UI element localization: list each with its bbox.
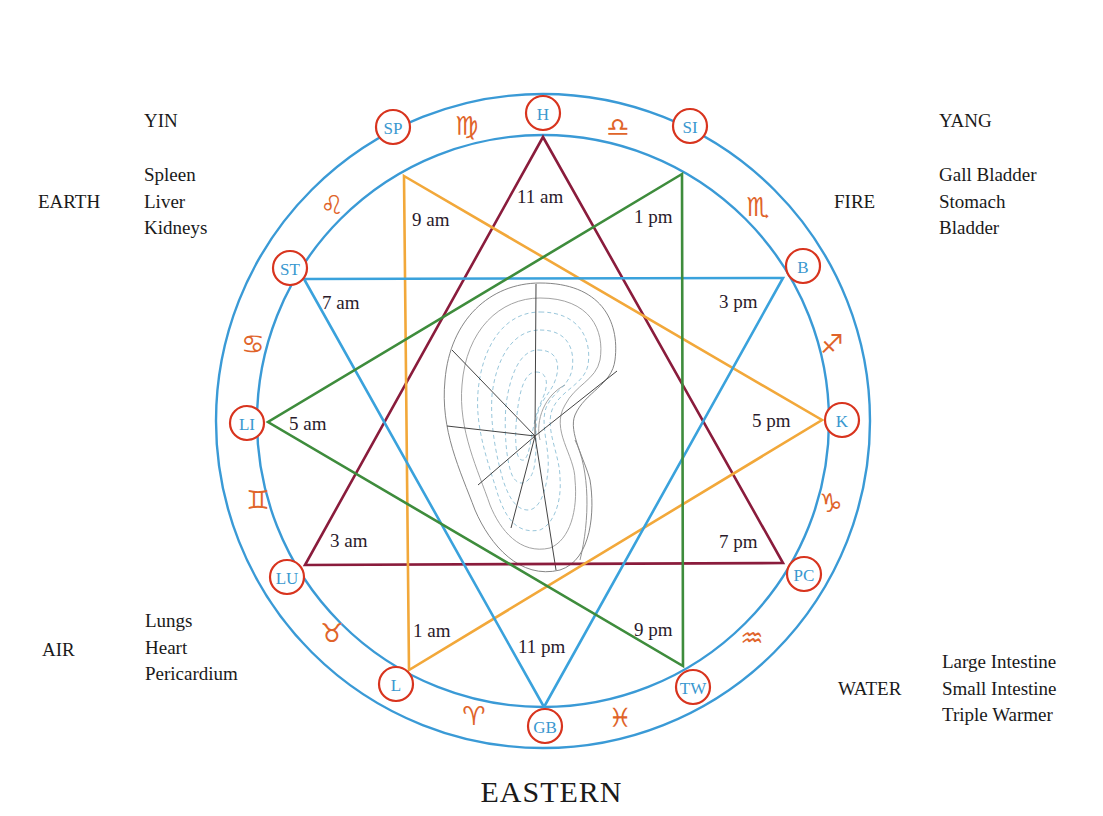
node-li: LI — [230, 406, 264, 440]
time-label-pc: 7 pm — [719, 531, 758, 552]
leo-icon: ♌ — [320, 190, 343, 220]
node-gb: GB — [528, 709, 562, 743]
node-lu: LU — [270, 560, 304, 594]
virgo-icon: ♍ — [455, 111, 478, 141]
time-label-si: 1 pm — [634, 206, 673, 227]
triangle-green — [268, 174, 683, 666]
svg-text:H: H — [537, 105, 549, 124]
time-label-b: 3 pm — [719, 291, 758, 312]
svg-text:TW: TW — [680, 679, 707, 698]
node-sp: SP — [376, 110, 410, 144]
gemini-icon: ♊ — [246, 485, 269, 515]
diagram-title: EASTERN — [0, 775, 1103, 809]
time-label-sp: 9 am — [412, 209, 450, 230]
svg-text:K: K — [836, 412, 849, 431]
sagittarius-icon: ♐ — [820, 329, 843, 359]
time-label-st: 7 am — [322, 292, 360, 313]
node-tw: TW — [676, 670, 710, 704]
svg-text:GB: GB — [533, 718, 557, 737]
time-label-k: 5 pm — [752, 410, 791, 431]
time-label-h: 11 am — [517, 186, 563, 207]
aquarius-icon: ♒ — [740, 623, 763, 653]
meridian-clock-diagram: 11 am 9 am 1 pm 7 am 3 pm 5 am 5 pm 3 am… — [0, 0, 1103, 816]
node-si: SI — [673, 109, 707, 143]
svg-text:LU: LU — [276, 569, 299, 588]
svg-text:SI: SI — [682, 118, 697, 137]
scorpio-icon: ♏ — [746, 192, 769, 222]
cancer-icon: ♋ — [241, 329, 264, 359]
ear-diagram-icon — [444, 283, 617, 572]
capricorn-icon: ♑ — [819, 488, 842, 518]
libra-icon: ♎ — [606, 112, 629, 142]
node-st: ST — [273, 251, 307, 285]
svg-text:SP: SP — [384, 119, 403, 138]
svg-text:B: B — [797, 258, 808, 277]
node-pc: PC — [787, 557, 821, 591]
svg-text:ST: ST — [280, 260, 300, 279]
node-k: K — [825, 403, 859, 437]
aries-icon: ♈ — [462, 701, 485, 731]
time-label-gb: 11 pm — [518, 636, 566, 657]
time-label-li: 5 am — [289, 413, 327, 434]
svg-text:L: L — [391, 676, 401, 695]
svg-text:LI: LI — [239, 415, 255, 434]
time-label-lu: 3 am — [330, 530, 368, 551]
time-label-tw: 9 pm — [634, 619, 673, 640]
svg-text:PC: PC — [794, 566, 815, 585]
node-h: H — [526, 96, 560, 130]
node-l: L — [379, 667, 413, 701]
taurus-icon: ♉ — [320, 618, 343, 648]
pisces-icon: ♓ — [608, 703, 631, 733]
node-b: B — [786, 249, 820, 283]
time-label-l: 1 am — [413, 620, 451, 641]
